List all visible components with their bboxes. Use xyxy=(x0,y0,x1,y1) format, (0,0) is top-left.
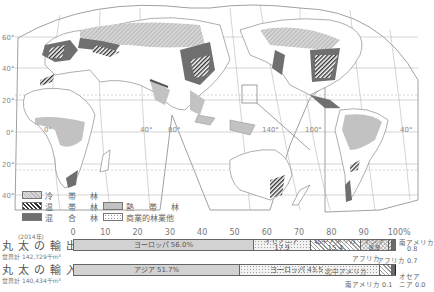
legend-mixed-forest: 混 合 林 xyxy=(22,212,104,222)
latitude-labels: 60° 40° 20° 0° 20° 40° xyxy=(2,34,14,200)
import-callout-north-central-america: 北中アメリカ xyxy=(325,266,367,276)
tick: 90 xyxy=(359,228,369,237)
mixed-forest-swatch xyxy=(22,213,42,221)
tick: 80 xyxy=(326,228,336,237)
import-seg-north-central-america xyxy=(380,265,393,275)
export-callout-south-america-value: 0.8 xyxy=(407,245,417,253)
export-seg-europe: ヨーロッパ 56.0% xyxy=(74,240,254,250)
export-seg-south-america xyxy=(392,240,395,250)
x-axis: 0 10 20 30 40 50 60 70 80 90 100% xyxy=(73,226,396,238)
import-callout-africa: アフリカ 0.7 xyxy=(377,255,417,265)
svg-text:0°: 0° xyxy=(6,129,14,137)
log-trade-chart: (2014年) 0 10 20 30 40 50 60 70 80 90 100… xyxy=(0,226,421,292)
svg-text:80°: 80° xyxy=(168,126,180,134)
import-label: 丸太の輸入 xyxy=(2,261,82,277)
svg-text:0°: 0° xyxy=(44,126,52,134)
svg-text:140°: 140° xyxy=(262,126,279,134)
svg-text:40°: 40° xyxy=(2,65,14,73)
legend-tropical-forest: 熱 帯 林 xyxy=(103,201,185,211)
export-bar: ヨーロッパ 56.0% オセアニア17.9 北中アメリカ15.4 アジア8.9 xyxy=(73,239,396,251)
temperate-forest-swatch xyxy=(22,202,42,210)
tick: 20 xyxy=(133,228,143,237)
tick: 100% xyxy=(388,228,411,237)
export-callout-africa: アフリカ xyxy=(352,253,380,263)
tick: 10 xyxy=(100,228,110,237)
cold-forest-swatch xyxy=(22,191,42,199)
svg-text:20°: 20° xyxy=(2,161,14,169)
legend-cold-forest: 冷 帯 林 xyxy=(22,190,104,200)
export-seg-oceania: オセアニア17.9 xyxy=(254,240,311,250)
export-total: 世界計 142,729千m³ xyxy=(2,252,61,261)
map-legend-2: 熱 帯 林 商業的林業他 xyxy=(103,201,185,223)
tropical-forest-swatch xyxy=(103,202,123,210)
export-seg-asia: アジア8.9 xyxy=(361,240,390,250)
import-callout-south-america: 南アメリカ 0.1 xyxy=(345,279,392,289)
tick: 40 xyxy=(197,228,207,237)
commercial-forestry-swatch xyxy=(103,213,123,221)
map-legend: 冷 帯 林 温 帯 林 混 合 林 xyxy=(22,190,104,223)
tick: 50 xyxy=(229,228,239,237)
svg-text:40°: 40° xyxy=(2,192,14,200)
import-seg-asia: アジア 51.7% xyxy=(74,265,240,275)
svg-text:60°: 60° xyxy=(2,34,14,42)
svg-text:40°: 40° xyxy=(400,126,412,134)
export-label: 丸太の輸出 xyxy=(2,237,82,253)
svg-text:100°: 100° xyxy=(305,126,322,134)
svg-text:40°: 40° xyxy=(140,126,152,134)
inset-box xyxy=(242,85,257,103)
tick: 0 xyxy=(70,228,75,237)
export-seg-north-central-america: 北中アメリカ15.4 xyxy=(311,240,360,250)
tick: 60 xyxy=(262,228,272,237)
tick: 30 xyxy=(165,228,175,237)
import-total: 世界計 140,434千m³ xyxy=(2,276,61,285)
tick: 70 xyxy=(294,228,304,237)
legend-commercial-forestry: 商業的林業他 xyxy=(103,212,185,222)
legend-temperate-forest: 温 帯 林 xyxy=(22,201,104,211)
svg-text:20°: 20° xyxy=(2,97,14,105)
import-callout-oceania-2: ニア 0.0 xyxy=(399,279,425,289)
